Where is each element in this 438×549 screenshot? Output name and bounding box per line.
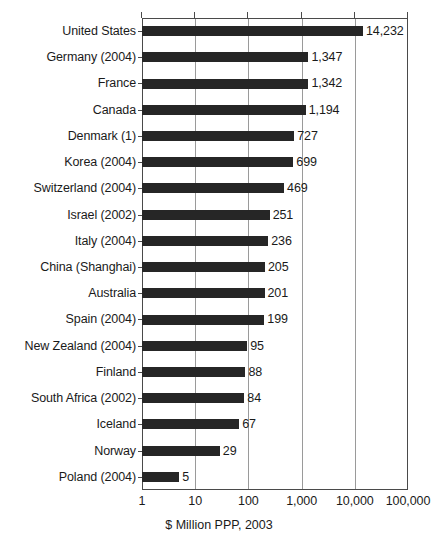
bar <box>142 446 220 456</box>
bar-value-label: 251 <box>273 202 294 228</box>
bar-row: Finland88 <box>0 359 438 385</box>
x-axis-tick-label: 1 <box>139 494 146 508</box>
bar <box>142 26 363 36</box>
category-label: Germany (2004) <box>0 44 136 70</box>
category-label: Norway <box>0 438 136 464</box>
bar-value-label: 199 <box>267 306 288 332</box>
category-label: New Zealand (2004) <box>0 333 136 359</box>
bar <box>142 472 179 482</box>
category-label: Canada <box>0 97 136 123</box>
bar-value-label: 1,194 <box>309 97 340 123</box>
bar-value-label: 88 <box>248 359 262 385</box>
bar-value-label: 469 <box>287 175 308 201</box>
bar-value-label: 67 <box>242 411 256 437</box>
category-label: Israel (2002) <box>0 202 136 228</box>
category-label: United States <box>0 18 136 44</box>
bar-row: Italy (2004)236 <box>0 228 438 254</box>
bar-value-label: 1,342 <box>311 70 342 96</box>
x-axis-title: $ Million PPP, 2003 <box>0 518 438 532</box>
category-label: Italy (2004) <box>0 228 136 254</box>
bar-rows: United States14,232Germany (2004)1,347Fr… <box>0 0 438 549</box>
bar <box>142 419 239 429</box>
bar-value-label: 236 <box>271 228 292 254</box>
bar-value-label: 14,232 <box>366 18 404 44</box>
bar-row: Spain (2004)199 <box>0 306 438 332</box>
bar <box>142 52 308 62</box>
category-label: France <box>0 70 136 96</box>
bar-row: Australia201 <box>0 280 438 306</box>
bar-value-label: 205 <box>268 254 289 280</box>
bar-row: France1,342 <box>0 70 438 96</box>
bar-value-label: 727 <box>297 123 318 149</box>
bar <box>142 210 270 220</box>
bar-row: Norway29 <box>0 438 438 464</box>
x-axis-tick-label: 1,000 <box>286 494 317 508</box>
category-label: Australia <box>0 280 136 306</box>
category-label: China (Shanghai) <box>0 254 136 280</box>
category-label: Finland <box>0 359 136 385</box>
bar <box>142 157 293 167</box>
bar-row: South Africa (2002)84 <box>0 385 438 411</box>
x-axis-tick-label: 100,000 <box>386 494 431 508</box>
bar-row: Iceland67 <box>0 411 438 437</box>
bar <box>142 131 294 141</box>
bar-value-label: 201 <box>268 280 289 306</box>
bar-value-label: 95 <box>250 333 264 359</box>
bar <box>142 79 308 89</box>
bar-value-label: 29 <box>223 438 237 464</box>
bar-row: New Zealand (2004)95 <box>0 333 438 359</box>
bar <box>142 262 265 272</box>
bar-chart: United States14,232Germany (2004)1,347Fr… <box>0 0 438 549</box>
bar <box>142 341 247 351</box>
bar-row: China (Shanghai)205 <box>0 254 438 280</box>
bar-row: Denmark (1)727 <box>0 123 438 149</box>
bar <box>142 315 264 325</box>
category-label: Iceland <box>0 411 136 437</box>
bar-value-label: 1,347 <box>311 44 342 70</box>
bar <box>142 393 244 403</box>
bar <box>142 236 268 246</box>
x-axis-tick-label: 10,000 <box>336 494 374 508</box>
bar <box>142 367 245 377</box>
bar-row: Israel (2002)251 <box>0 202 438 228</box>
category-label: Poland (2004) <box>0 464 136 490</box>
bar-row: Korea (2004)699 <box>0 149 438 175</box>
bar-value-label: 699 <box>296 149 317 175</box>
category-label: Switzerland (2004) <box>0 175 136 201</box>
x-axis-tick-label: 10 <box>188 494 202 508</box>
bar-row: Germany (2004)1,347 <box>0 44 438 70</box>
category-label: South Africa (2002) <box>0 385 136 411</box>
bar <box>142 288 265 298</box>
bar-row: Canada1,194 <box>0 97 438 123</box>
bar-row: United States14,232 <box>0 18 438 44</box>
bar-value-label: 5 <box>182 464 189 490</box>
category-label: Korea (2004) <box>0 149 136 175</box>
category-label: Spain (2004) <box>0 306 136 332</box>
bar <box>142 183 284 193</box>
x-axis-tick-label: 100 <box>238 494 259 508</box>
bar-value-label: 84 <box>247 385 261 411</box>
bar-row: Poland (2004)5 <box>0 464 438 490</box>
bar <box>142 105 306 115</box>
bar-row: Switzerland (2004)469 <box>0 175 438 201</box>
category-label: Denmark (1) <box>0 123 136 149</box>
